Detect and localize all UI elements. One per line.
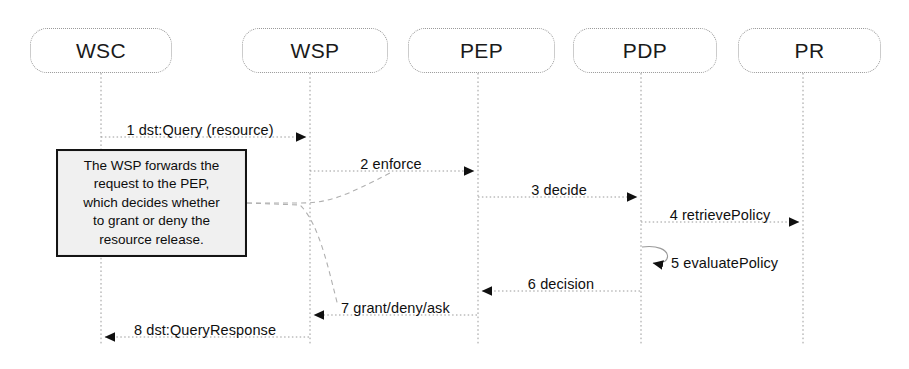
message-label-5: 5 evaluatePolicy: [671, 255, 778, 271]
lifeline-head-pep[interactable]: PEP: [408, 28, 555, 73]
message-label-7: 7 grant/deny/ask: [341, 300, 450, 316]
message-label-6: 6 decision: [528, 276, 594, 292]
message-line-5[interactable]: [642, 247, 668, 264]
message-label-8: 8 dst:QueryResponse: [134, 322, 276, 338]
lifeline-head-wsp[interactable]: WSP: [242, 28, 388, 73]
lifeline-label-wsp: WSP: [290, 39, 339, 63]
message-label-2: 2 enforce: [360, 156, 421, 172]
lifeline-label-pr: PR: [795, 39, 825, 63]
lifeline-head-pr[interactable]: PR: [738, 28, 881, 73]
message-label-4: 4 retrievePolicy: [670, 207, 771, 223]
lifeline-head-wsc[interactable]: WSC: [30, 28, 172, 73]
lifeline-head-pdp[interactable]: PDP: [573, 28, 717, 73]
note-line: which decides whether: [83, 194, 220, 213]
lifeline-label-wsc: WSC: [76, 39, 126, 63]
note-line: to grant or deny the: [93, 212, 210, 231]
note-anchor-to-message-2: [247, 172, 392, 203]
note-anchor-to-message-7: [247, 203, 338, 306]
note-line: request to the PEP,: [94, 175, 209, 194]
note-line: The WSP forwards the: [84, 157, 220, 176]
lifeline-label-pep: PEP: [460, 39, 503, 63]
lifeline-label-pdp: PDP: [623, 39, 667, 63]
sequence-diagram-canvas: WSCWSPPEPPDPPR The WSP forwards thereque…: [0, 0, 909, 369]
message-label-1: 1 dst:Query (resource): [126, 122, 273, 138]
message-label-3: 3 decide: [531, 182, 587, 198]
note-line: resource release.: [99, 231, 203, 250]
note-wsp-forward-note: The WSP forwards therequest to the PEP,w…: [56, 149, 247, 257]
note-anchor-group: [247, 172, 392, 306]
